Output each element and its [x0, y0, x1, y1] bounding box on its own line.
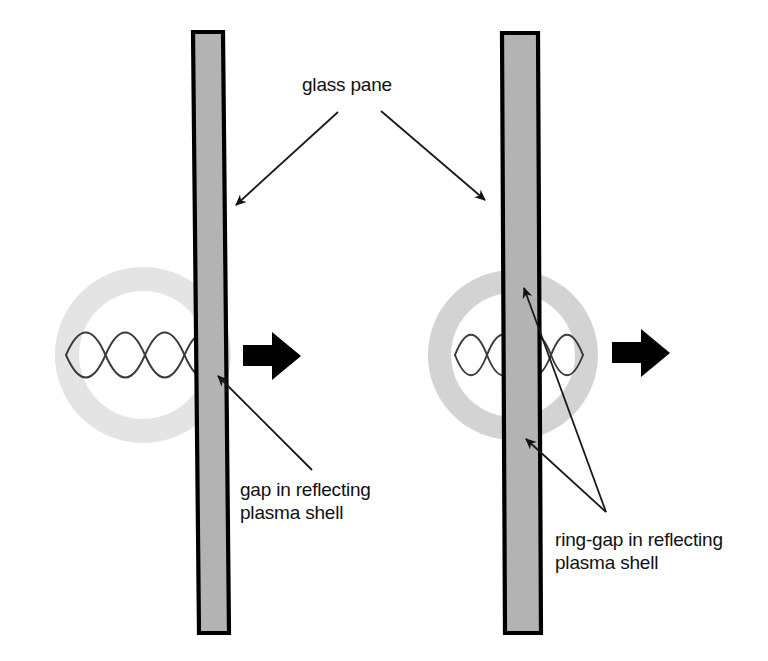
diagram-canvas: glass pane gap in reflecting plasma shel… — [0, 0, 768, 661]
glass-pane-label: glass pane — [302, 74, 392, 95]
right-glass-pane — [502, 33, 541, 633]
ring-gap-label-line2: plasma shell — [555, 552, 658, 573]
gap-label-line2: plasma shell — [240, 502, 343, 523]
gap-label-line1: gap in reflecting — [240, 479, 371, 500]
left-glass-pane — [193, 32, 229, 633]
ring-gap-label-line1: ring-gap in reflecting — [555, 529, 723, 550]
plasma-shell-figure: glass pane gap in reflecting plasma shel… — [0, 0, 768, 661]
